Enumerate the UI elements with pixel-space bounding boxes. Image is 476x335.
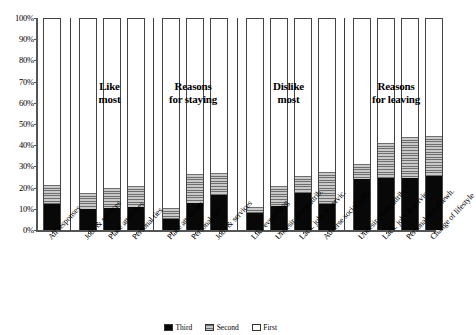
y-axis-tick-mark [34, 124, 38, 125]
legend-swatch-black [164, 324, 173, 331]
y-axis-tick-mark [34, 60, 38, 61]
bar-column [127, 18, 145, 230]
bar-column [79, 18, 97, 230]
y-axis-tick-label: 60% [19, 99, 34, 108]
y-axis-tick-mark [34, 188, 38, 189]
y-axis-tick-mark [34, 82, 38, 83]
y-axis-tick-label: 10% [19, 205, 34, 214]
group-separator [70, 18, 71, 230]
y-axis-tick-mark [34, 39, 38, 40]
legend-label: Third [175, 324, 192, 332]
y-axis-tick-mark [34, 103, 38, 104]
group-header: Reasonsfor staying [160, 80, 226, 105]
bar-segment-white [426, 19, 442, 136]
group-header-line1: Like [77, 80, 143, 93]
group-separator [237, 18, 238, 230]
bar-column [162, 18, 180, 230]
legend-item: Third [164, 324, 192, 332]
bar-segment-white [80, 19, 96, 193]
group-header: Dislikemost [244, 80, 334, 105]
group-header-line2: most [77, 93, 143, 106]
bar-segment-gray [295, 176, 311, 193]
y-axis-tick-label: 50% [19, 120, 34, 129]
y-axis-tick-mark [34, 166, 38, 167]
plot-area: 0%10%20%30%40%50%60%70%80%90%100% [36, 18, 436, 232]
legend-swatch-gray-hatched [205, 324, 214, 331]
legend-label: Second [217, 324, 239, 332]
group-separator [153, 18, 154, 230]
bar-segment-gray [378, 143, 394, 178]
y-axis-tick-mark [34, 145, 38, 146]
y-axis-tick-mark [34, 209, 38, 210]
bar-column [210, 18, 228, 230]
chart-legend: ThirdSecondFirst [0, 324, 441, 332]
group-header-line1: Reasons [160, 80, 226, 93]
bar-column [43, 18, 61, 230]
bar-column [103, 18, 121, 230]
bar-column [186, 18, 204, 230]
y-axis-tick-label: 80% [19, 56, 34, 65]
bar-column [246, 18, 264, 230]
legend-swatch-white [252, 324, 261, 331]
y-axis-tick-mark [34, 18, 38, 19]
group-header-line1: Reasons [351, 80, 441, 93]
group-header-line2: for leaving [351, 93, 441, 106]
y-axis-tick-label: 20% [19, 183, 34, 192]
y-axis-tick-mark [34, 230, 38, 231]
bar-column [270, 18, 288, 230]
group-header-line2: for staying [160, 93, 226, 106]
y-axis-tick-label: 40% [19, 141, 34, 150]
y-axis-tick-label: 90% [19, 35, 34, 44]
bar-segment-gray [354, 164, 370, 180]
y-axis-tick-label: 0% [23, 226, 34, 235]
bar-segment-gray [44, 185, 60, 204]
bar-segment-gray [402, 137, 418, 178]
y-axis-tick-label: 100% [15, 14, 34, 23]
bar-segment-white [163, 19, 179, 208]
bar-segment-gray [187, 174, 203, 202]
group-header: Reasonsfor leaving [351, 80, 441, 105]
bar-segment-white [247, 19, 263, 207]
legend-item: Second [205, 324, 239, 332]
y-axis-tick-label: 70% [19, 77, 34, 86]
y-axis-tick-label: 30% [19, 162, 34, 171]
bar-segment-gray [211, 173, 227, 195]
bar-segment-gray [80, 193, 96, 209]
bar-segment-gray [426, 136, 442, 176]
legend-item: First [252, 324, 277, 332]
legend-label: First [263, 324, 277, 332]
group-header: Likemost [77, 80, 143, 105]
bar-segment-white [44, 19, 60, 185]
group-header-line2: most [244, 93, 334, 106]
group-header-line1: Dislike [244, 80, 334, 93]
bar-segment-white [402, 19, 418, 137]
bar-segment-gray [163, 208, 179, 220]
